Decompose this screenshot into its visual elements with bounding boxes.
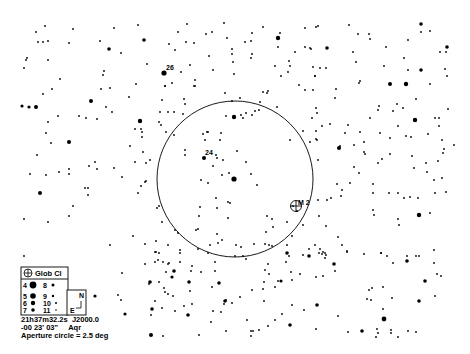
star (439, 51, 441, 53)
star (429, 30, 431, 32)
star (285, 261, 287, 263)
star (198, 334, 200, 336)
star (159, 111, 161, 113)
star (363, 151, 365, 153)
star (340, 195, 342, 197)
star (417, 213, 421, 217)
star (173, 134, 175, 136)
star (182, 113, 184, 115)
star (307, 254, 311, 258)
star (240, 114, 242, 116)
star (171, 82, 173, 84)
star (113, 27, 115, 29)
star (337, 236, 339, 238)
star (276, 36, 280, 40)
star (346, 251, 348, 253)
star (358, 172, 360, 174)
legend-magnitude-label: 4 (23, 282, 27, 289)
star (36, 154, 38, 156)
star (180, 71, 182, 73)
star (210, 321, 212, 323)
star (215, 154, 217, 156)
star (23, 255, 25, 257)
star (227, 217, 229, 219)
star (381, 158, 383, 160)
star (363, 141, 365, 143)
star (165, 271, 167, 273)
star (263, 300, 265, 302)
star (174, 310, 176, 312)
star (134, 128, 136, 130)
target-label: M 2 (298, 199, 310, 206)
star (38, 191, 42, 195)
star (245, 112, 247, 114)
star (262, 91, 264, 93)
star (167, 293, 169, 295)
star (315, 138, 317, 140)
star (436, 273, 438, 275)
star (161, 99, 163, 101)
star (369, 117, 371, 119)
star (445, 191, 447, 193)
star (433, 249, 435, 251)
star (208, 55, 210, 57)
star (145, 180, 147, 182)
star (291, 304, 293, 306)
star (206, 131, 208, 133)
star (134, 161, 136, 163)
star (446, 75, 448, 77)
star (406, 255, 408, 257)
legend-magnitude-label: 11 (43, 307, 51, 314)
north-label: N (79, 292, 84, 299)
star (244, 41, 246, 43)
star (287, 71, 289, 73)
legend-magnitude-label: 10 (43, 300, 51, 307)
star (303, 309, 305, 311)
star (189, 290, 191, 292)
star (168, 262, 170, 264)
star (373, 214, 375, 216)
star (68, 173, 70, 175)
star (289, 139, 291, 141)
star (194, 79, 196, 81)
star (434, 295, 436, 297)
star (158, 205, 160, 207)
star (419, 22, 423, 26)
star (324, 252, 326, 254)
star (245, 258, 247, 260)
star (263, 281, 265, 283)
star (268, 273, 270, 275)
star (294, 51, 296, 53)
star (170, 275, 173, 278)
star (177, 31, 179, 33)
star (274, 319, 276, 321)
star (281, 313, 283, 315)
star (415, 331, 417, 333)
star (397, 192, 399, 194)
star (222, 159, 224, 161)
star (154, 251, 156, 253)
star (172, 295, 174, 297)
star (398, 224, 400, 226)
star (174, 49, 176, 51)
legend-magnitude-label: 6 (23, 300, 27, 307)
star (137, 192, 139, 194)
star (216, 207, 218, 209)
star (224, 92, 226, 94)
aperture-line: Aperture circle = 2.5 deg (21, 332, 108, 340)
star (184, 103, 186, 105)
star (413, 167, 415, 169)
star (304, 27, 306, 29)
star (272, 226, 274, 228)
star (407, 330, 409, 332)
star (232, 61, 234, 63)
star (370, 299, 372, 301)
star (223, 22, 225, 24)
star (299, 273, 301, 275)
star (312, 89, 314, 91)
star (337, 315, 339, 317)
legend-magnitude-dot (55, 302, 57, 304)
star (47, 40, 49, 42)
star (318, 215, 320, 217)
star (251, 32, 253, 34)
